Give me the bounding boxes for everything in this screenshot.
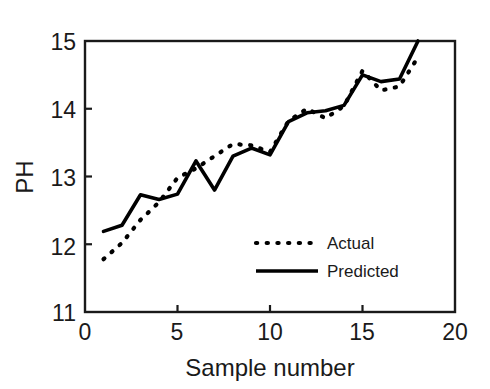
- x-tick-label-0: 0: [79, 319, 92, 345]
- x-tick-label-20: 20: [442, 319, 468, 345]
- y-tick-label-12: 12: [50, 234, 76, 260]
- y-tick-label-11: 11: [52, 300, 76, 326]
- chart-canvas: 15 14 13 12 11 0 5 10 15 20 Sample numbe…: [0, 0, 490, 389]
- series-predicted-line: [104, 41, 419, 231]
- y-tick-label-13: 13: [50, 165, 76, 191]
- x-axis-title: Sample number: [185, 354, 354, 381]
- chart-legend: Actual Predicted: [256, 234, 399, 281]
- legend-label-predicted: Predicted: [327, 262, 399, 281]
- y-tick-label-14: 14: [50, 97, 76, 123]
- legend-label-actual: Actual: [327, 234, 374, 253]
- x-tick-label-5: 5: [171, 319, 184, 345]
- y-axis-title: PH: [11, 160, 38, 193]
- series-actual-line: [104, 57, 419, 259]
- chart-figure: 15 14 13 12 11 0 5 10 15 20 Sample numbe…: [0, 0, 490, 389]
- x-tick-label-15: 15: [349, 319, 375, 345]
- y-tick-label-15: 15: [50, 29, 76, 55]
- x-tick-label-10: 10: [257, 319, 283, 345]
